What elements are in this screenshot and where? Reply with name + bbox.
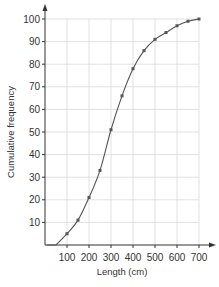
y-tick-label: 40 xyxy=(29,149,41,160)
x-tick-label: 700 xyxy=(191,252,208,263)
y-tick-label: 50 xyxy=(29,127,41,138)
x-tick-label: 400 xyxy=(125,252,142,263)
data-point-marker xyxy=(77,219,80,222)
x-tick-label: 500 xyxy=(147,252,164,263)
data-point-marker xyxy=(88,196,91,199)
y-tick-label: 80 xyxy=(29,59,41,70)
data-point-marker xyxy=(99,169,102,172)
y-tick-label: 10 xyxy=(29,217,41,228)
cumulative-frequency-chart: 102030405060708090100 100200300400500600… xyxy=(0,0,219,287)
data-point-marker xyxy=(176,24,179,27)
y-tick-label: 90 xyxy=(29,36,41,47)
x-tick-label: 600 xyxy=(169,252,186,263)
y-tick-label: 70 xyxy=(29,81,41,92)
y-tick-label: 60 xyxy=(29,104,41,115)
x-tick-label: 200 xyxy=(81,252,98,263)
x-axis-label: Length (cm) xyxy=(97,266,148,277)
y-axis-label: Cumulative frequency xyxy=(5,86,16,178)
x-tick-label: 300 xyxy=(103,252,120,263)
data-point-marker xyxy=(66,232,69,235)
x-tick-label: 100 xyxy=(59,252,76,263)
y-tick-label: 100 xyxy=(23,14,40,25)
y-tick-label: 20 xyxy=(29,194,41,205)
x-axis-arrow-icon xyxy=(209,243,216,248)
x-axis-ticks: 100200300400500600700 xyxy=(59,245,208,263)
y-axis-ticks: 102030405060708090100 xyxy=(23,14,45,228)
y-axis-arrow-icon xyxy=(43,4,48,11)
axes xyxy=(43,4,217,248)
data-point-marker xyxy=(121,94,124,97)
data-point-marker xyxy=(165,31,168,34)
y-tick-label: 30 xyxy=(29,172,41,183)
data-point-marker xyxy=(187,20,190,23)
data-point-marker xyxy=(110,128,113,131)
data-point-marker xyxy=(198,18,201,21)
data-point-marker xyxy=(132,67,135,70)
data-point-marker xyxy=(143,49,146,52)
data-point-marker xyxy=(154,38,157,41)
grid-lines xyxy=(45,19,199,245)
